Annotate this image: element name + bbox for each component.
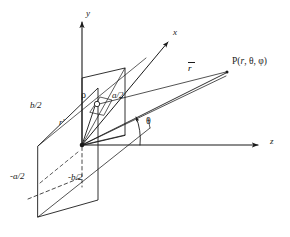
figure-container: y x z b/2 a/2 -a/2 -b/2 r' r ρ θ P(r, θ,… [0,0,290,237]
vector-label-r-prime-mark: ' [63,117,65,127]
field-point-dot [226,71,229,74]
theta-arc [136,117,140,145]
dimension-label-a-over-2-upper: a/2 [112,91,124,100]
dimension-label-minus-b-over-2: -b/2 [68,173,83,182]
plane-lower-edge-right [38,128,150,217]
axis-label-y: y [86,9,90,18]
construction-origin-to-rect-corner [82,68,125,145]
field-point-label: P(r, θ, φ) [232,57,267,67]
axis-label-z: z [270,137,274,146]
vector-label-r-bar-text: r [188,63,192,73]
dimension-label-b-over-2-upper: b/2 [30,101,42,110]
greek-label-theta: θ [146,116,151,126]
dimension-label-minus-a-over-2: -a/2 [10,172,25,181]
vector-label-r-bar: r [188,62,195,73]
vector-label-r-prime: r' [59,112,64,128]
ray-origin-to-point-lower [82,76,226,145]
source-point-circle [94,101,99,106]
greek-label-rho: ρ [81,90,86,100]
origin-dot [80,143,85,148]
axis-label-x: x [173,28,177,37]
diagram-canvas [0,0,290,237]
aperture-plane [38,88,98,217]
field-point-suffix: ) [264,56,267,66]
vector-r-bar [82,73,226,145]
